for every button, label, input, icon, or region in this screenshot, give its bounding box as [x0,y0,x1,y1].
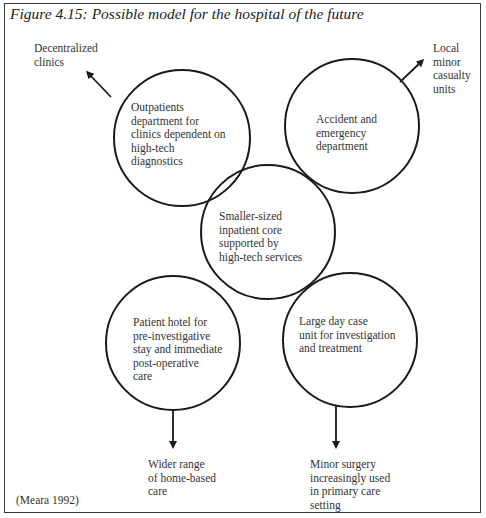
label-line: in primary care [310,485,390,499]
label-line: of home-based [148,472,216,486]
label-line: high-tech services [219,251,302,265]
label-line: Minor surgery [310,458,390,472]
arrow-decentralized [88,73,111,97]
label-line: department [316,140,377,154]
label-line: pre-investigative [133,330,222,344]
label-line: high-tech [131,142,226,156]
node-daycase-label: Large day case unit for investigation an… [299,315,395,356]
label-line: units [433,83,471,97]
label-line: setting [310,499,390,513]
outcome-homecare-label: Wider range of home-based care [148,458,216,499]
label-line: Outpatients [131,101,226,115]
label-line: diagnostics [131,155,226,169]
label-line: inpatient core [219,224,302,238]
label-line: Smaller-sized [219,210,302,224]
label-line: increasingly used [310,472,390,486]
label-line: minor [433,56,471,70]
label-line: care [148,485,216,499]
label-line: emergency [316,127,377,141]
label-line: clinics dependent on [131,128,226,142]
label-line: Patient hotel for [133,316,222,330]
label-line: unit for investigation [299,329,395,343]
label-line: Decentralized [34,42,98,56]
label-line: casualty [433,69,471,83]
label-line: supported by [219,237,302,251]
label-line: clinics [34,56,98,70]
label-line: post-operative [133,357,222,371]
label-line: and treatment [299,342,395,356]
label-line: stay and immediate [133,343,222,357]
outcome-decentralized-label: Decentralized clinics [34,42,98,69]
label-line: care [133,370,222,384]
outcome-minorsurgery-label: Minor surgery increasingly used in prima… [310,458,390,512]
figure-source: (Meara 1992) [16,494,79,506]
label-line: Local [433,42,471,56]
arrow-casualty [400,61,422,82]
node-outpatients-label: Outpatients department for clinics depen… [131,101,226,169]
label-line: Accident and [316,113,377,127]
outcome-casualty-label: Local minor casualty units [433,42,471,96]
node-accident-label: Accident and emergency department [316,113,377,154]
node-core-label: Smaller-sized inpatient core supported b… [219,210,302,264]
label-line: Wider range [148,458,216,472]
label-line: Large day case [299,315,395,329]
node-hotel-label: Patient hotel for pre-investigative stay… [133,316,222,384]
label-line: department for [131,115,226,129]
